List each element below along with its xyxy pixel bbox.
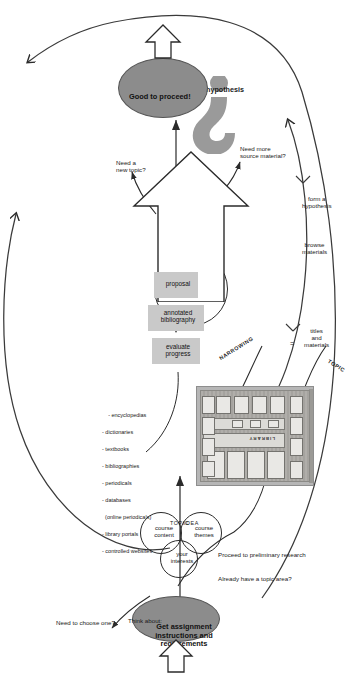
source-item: - library portals: [102, 531, 138, 537]
source-item: - dictionaries: [102, 429, 133, 435]
hypothesis-label: hypothesis: [206, 86, 244, 94]
source-item: - databases: [102, 497, 131, 503]
equals-sign: =: [290, 340, 294, 348]
pipeline-box-proposal-label: proposal: [158, 280, 198, 287]
step-form-hypothesis: form a hypothesis: [302, 196, 332, 210]
library-sign: LIBRARY: [249, 436, 275, 441]
end-oval-label: Good to proceed!: [129, 93, 203, 102]
circle-your-interests-label: your interests: [167, 551, 197, 565]
start-block-arrow: [156, 638, 196, 673]
titles-and-materials: titles and materials: [304, 328, 329, 349]
source-item: - encyclopedias: [108, 412, 146, 418]
circle-course-themes-label: course themes: [187, 525, 221, 539]
step-browse-materials: browse materials: [302, 242, 327, 256]
pipeline-box-evaluate-progress-label: evaluate progress: [156, 343, 200, 357]
source-item: - periodicals: [102, 480, 132, 486]
pipeline-box-annotated-bibliography: annotated bibliography: [148, 305, 204, 331]
library-photo: LIBRARY: [196, 386, 314, 486]
diagram-frame: Get assignment instructions and requirem…: [0, 0, 346, 673]
label-need-new-topic: Need a new topic?: [116, 160, 146, 174]
label-proceed-prelim: Proceed to preliminary research: [218, 552, 306, 559]
label-think-about: Think about:: [128, 618, 162, 625]
pipeline-box-proposal: proposal: [154, 272, 198, 298]
source-item: - controlled websites: [102, 548, 152, 554]
source-item: (online periodicals): [102, 514, 151, 520]
library-facade: LIBRARY: [200, 390, 310, 482]
arrow-label-idea: IDEA: [184, 520, 199, 526]
label-need-choose-one: Need to choose one?: [56, 620, 115, 627]
label-need-more-source: Need more source material?: [240, 146, 286, 160]
pipeline-box-annotated-bibliography-label: annotated bibliography: [152, 309, 204, 323]
pipeline-box-evaluate-progress: evaluate progress: [152, 338, 200, 364]
source-item: - bibliographies: [102, 463, 139, 469]
library-source-list: - encyclopedias - dictionaries - textboo…: [102, 402, 152, 564]
diagram-canvas: Get assignment instructions and requirem…: [0, 0, 346, 673]
label-have-topic-area: Already have a topic area?: [218, 576, 292, 583]
source-item: - textbooks: [102, 446, 129, 452]
end-oval: Good to proceed!: [118, 58, 208, 118]
end-block-arrow: [142, 22, 184, 60]
